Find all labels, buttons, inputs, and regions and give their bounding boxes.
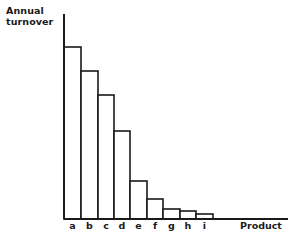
x-tick-label-f: f — [147, 220, 163, 231]
x-tick-label-i: i — [197, 220, 213, 231]
bar-f — [147, 199, 163, 219]
x-tick-label-a: a — [65, 220, 81, 231]
x-tick-label-e: e — [131, 220, 147, 231]
bar-a — [64, 47, 81, 219]
x-tick-label-g: g — [164, 220, 180, 231]
bar-h — [180, 211, 196, 219]
bar-g — [163, 209, 180, 219]
bar-b — [81, 71, 98, 219]
x-tick-label-d: d — [114, 220, 130, 231]
x-axis-label: Product — [240, 220, 282, 231]
x-tick-label-h: h — [180, 220, 196, 231]
bar-d — [114, 131, 130, 219]
bar-chart — [0, 0, 295, 236]
x-tick-label-b: b — [82, 220, 98, 231]
bar-c — [98, 95, 114, 219]
bar-e — [130, 181, 147, 219]
x-tick-label-c: c — [98, 220, 114, 231]
